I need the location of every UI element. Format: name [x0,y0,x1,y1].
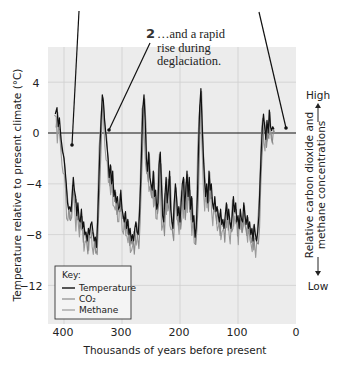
y-axis-title: Temperature relative to present climate … [11,69,23,303]
climate-chart: 2 …and a rapid rise during deglaciation.… [0,0,340,366]
x-tick-300: 300 [111,326,132,339]
right-low-label: Low [308,280,329,292]
x-tick-200: 200 [169,326,190,339]
legend-label-co2: CO₂ [79,294,96,304]
down-arrowhead-icon [315,271,321,276]
y-tick-4: 4 [33,77,40,90]
right-axis-title-line-2: methane concentrations [315,121,327,250]
annotation-dot-2 [107,128,111,132]
legend-title: Key: [62,270,81,280]
x-axis-title: Thousands of years before present [83,344,267,356]
annotation-line-1: …and a rapid [157,27,226,41]
annotation-dot-right [284,126,288,130]
up-arrowhead-icon [315,103,321,108]
annotation-line-3: deglaciation. [157,54,221,68]
annotation-dot-left [70,143,74,147]
x-tick-100: 100 [227,326,248,339]
annotation-line-2: rise during [157,41,212,55]
legend: Key: Temperature CO₂ Methane [55,266,136,319]
x-tick-400: 400 [53,326,74,339]
x-tick-0: 0 [293,326,300,339]
y-tick-neg4: −4 [26,178,42,191]
y-tick-neg8: −8 [26,229,42,242]
annotation-number: 2 [146,26,155,41]
right-high-label: High [306,89,330,101]
y-tick-0: 0 [33,127,40,140]
x-axis: 400 300 200 100 0 [53,326,300,339]
legend-label-methane: Methane [79,305,119,315]
legend-label-temperature: Temperature [78,283,136,293]
right-axis-title-line-1: Relative carbon dioxide and [303,112,315,258]
